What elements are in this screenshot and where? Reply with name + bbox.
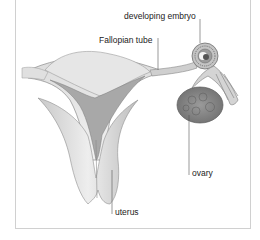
developing-embryo-shape: [192, 43, 218, 69]
fallopian-tube-shape: [150, 62, 197, 76]
label-ovary: ovary: [192, 169, 213, 178]
ovary-shape: [177, 87, 223, 123]
label-fallopian-tube: Fallopian tube: [99, 36, 152, 45]
uterus-shape: [22, 51, 160, 204]
label-uterus: uterus: [115, 208, 139, 217]
label-developing-embryo: developing embryo: [124, 12, 196, 21]
